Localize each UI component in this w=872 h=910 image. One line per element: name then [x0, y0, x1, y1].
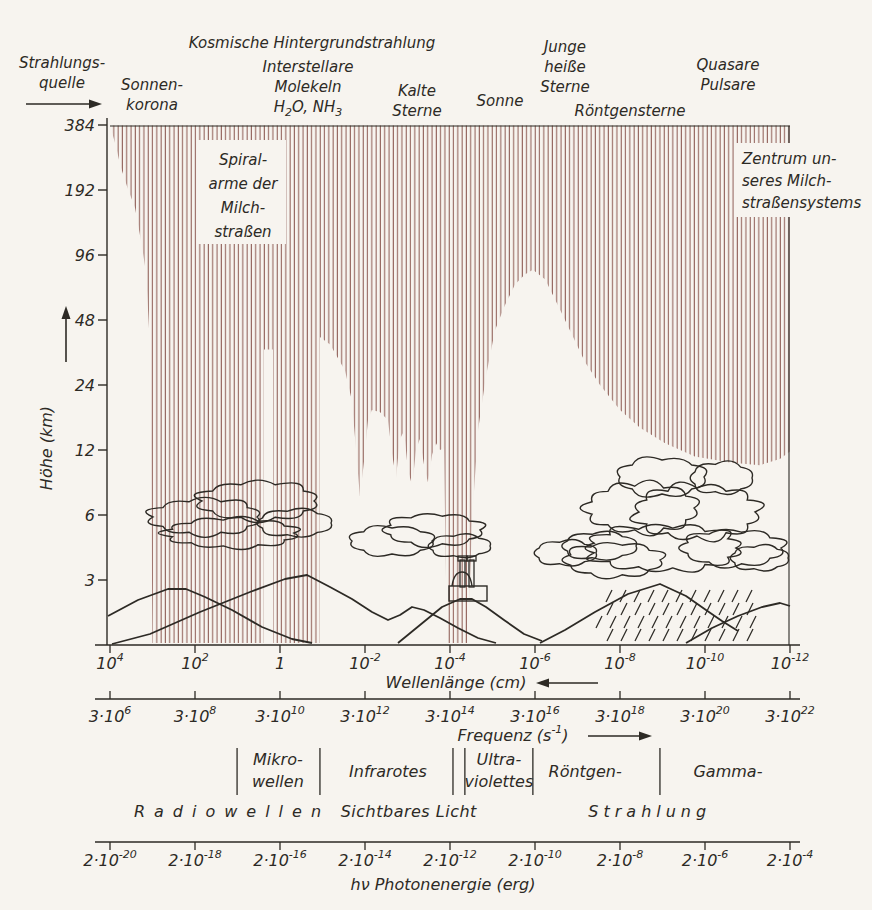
- height-tick-label: 3: [85, 571, 95, 590]
- band-label: Gamma-: [693, 762, 762, 781]
- source-label: Sonnen-: [121, 76, 183, 94]
- band-label: Ultra-: [477, 750, 522, 769]
- atmospheric-transparency-figure: Spiral-arme derMilch-straßenZentrum un-s…: [0, 0, 872, 910]
- axis-wavelength-title: Wellenlänge (cm): [386, 673, 527, 692]
- band-label: Infrarotes: [349, 762, 427, 781]
- annotation-spiral-arms: straßen: [214, 223, 271, 241]
- annotation-spiral-arms: Milch-: [221, 199, 265, 217]
- annotation-spiral-arms: arme der: [209, 175, 279, 193]
- axis-photon-energy-title: hν Photonenergie (erg): [351, 875, 536, 894]
- source-label: Kosmische Hintergrundstrahlung: [189, 34, 435, 52]
- source-label: Junge: [541, 38, 586, 56]
- height-tick-label: 24: [75, 376, 95, 395]
- annotation-galactic-center: seres Milch-: [742, 172, 831, 190]
- height-tick-label: 384: [64, 116, 95, 135]
- source-label: Kalte: [398, 82, 436, 100]
- source-label: Sterne: [540, 78, 590, 96]
- tick-label: 1: [275, 654, 285, 673]
- source-label: H2O, NH3: [274, 98, 343, 119]
- band-label: violettes: [465, 772, 534, 791]
- annotation-galactic-center: straßensystems: [742, 194, 861, 212]
- source-label: Sterne: [392, 102, 442, 120]
- source-label: Quasare: [697, 56, 760, 74]
- source-label: heiße: [544, 58, 586, 76]
- band-group-label: Radiowellen: [134, 802, 330, 821]
- height-tick-label: 6: [85, 506, 95, 525]
- band-label: Mikro-: [253, 750, 303, 769]
- sources-heading: Strahlungs-: [19, 54, 105, 72]
- band-group-label: Strahlung: [588, 802, 711, 821]
- height-tick-label: 12: [75, 441, 95, 460]
- source-label: korona: [126, 96, 178, 114]
- source-label: Pulsare: [700, 76, 755, 94]
- height-tick-label: 192: [64, 181, 95, 200]
- height-tick-label: 48: [75, 311, 95, 330]
- figure-canvas: Spiral-arme derMilch-straßenZentrum un-s…: [0, 0, 872, 910]
- sources-heading: quelle: [39, 74, 85, 92]
- band-label: Röntgen-: [549, 762, 622, 781]
- source-label: Sonne: [477, 92, 524, 110]
- annotation-spiral-arms: Spiral-: [219, 151, 267, 169]
- band-group-label: Sichtbares Licht: [341, 802, 477, 821]
- source-label: Molekeln: [274, 78, 341, 96]
- band-label: wellen: [252, 772, 304, 791]
- annotation-galactic-center: Zentrum un-: [741, 150, 836, 168]
- height-axis-title: Höhe (km): [37, 406, 56, 490]
- height-tick-label: 96: [75, 246, 95, 265]
- source-label: Interstellare: [262, 58, 353, 76]
- source-label: Röntgensterne: [574, 102, 685, 120]
